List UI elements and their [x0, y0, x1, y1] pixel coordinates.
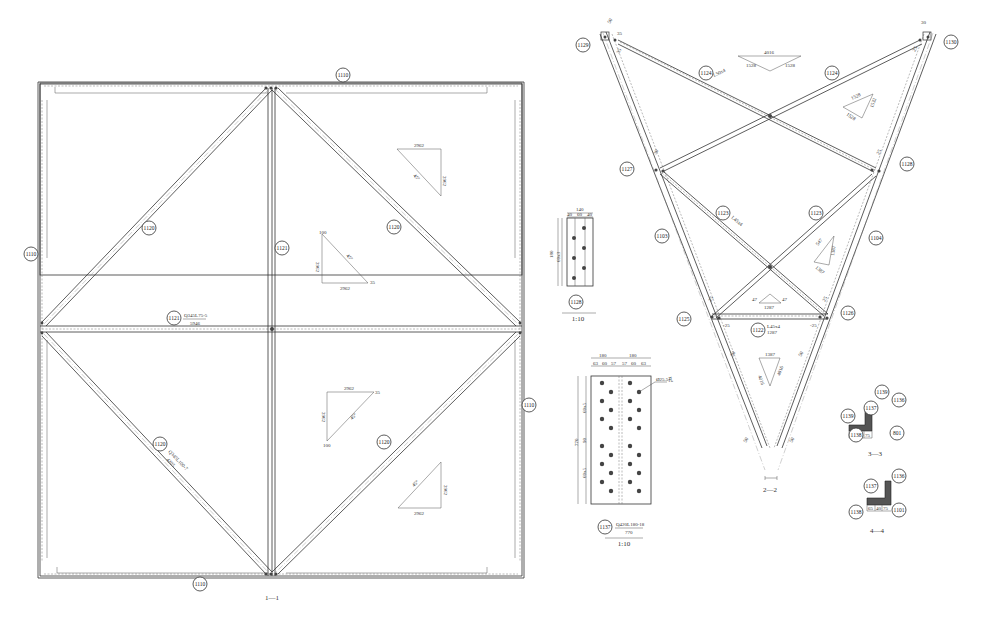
svg-text:50: 50 — [607, 17, 614, 24]
svg-text:1387: 1387 — [814, 265, 825, 276]
tag-3-3-d[interactable]: 1139 — [841, 409, 855, 423]
svg-text:50: 50 — [798, 350, 805, 357]
svg-text:1104: 1104 — [871, 235, 882, 241]
tag-4-4-b[interactable]: 1137 — [864, 479, 878, 493]
lower-cross-spec: L45x4 — [730, 215, 744, 228]
svg-text:1123: 1123 — [718, 210, 729, 216]
tag-mid-horizontal[interactable]: 1121 — [167, 311, 181, 325]
svg-text:1110: 1110 — [338, 72, 349, 78]
tag-3-3-a[interactable]: 1139 — [875, 385, 889, 399]
svg-text:1127: 1127 — [622, 166, 633, 172]
slope-triangle-2-1: 4016 1528 1528 — [738, 50, 801, 71]
mid-horizontal-length: 5946 — [190, 321, 201, 326]
svg-text:801: 801 — [893, 430, 902, 436]
svg-text:1287: 1287 — [764, 305, 775, 310]
tag-left-leg[interactable]: 1103 — [655, 229, 669, 243]
svg-text:547: 547 — [815, 237, 824, 246]
plate-1128-detail: 140 40 60 40 180 60x3 1128 1:10 — [549, 207, 596, 323]
slope-triangle-3: 2962 2962 45° 35 100 — [321, 386, 381, 448]
svg-text:60x5: 60x5 — [582, 403, 587, 414]
svg-text:45°: 45° — [412, 173, 420, 181]
tag-node-low-right[interactable]: 1126 — [841, 306, 855, 320]
svg-text:1124: 1124 — [827, 70, 838, 76]
svg-text:1129: 1129 — [578, 42, 589, 48]
tag-4-4-c[interactable]: 1138 — [849, 505, 863, 519]
svg-text:63: 63 — [593, 361, 599, 366]
svg-text:57: 57 — [622, 361, 628, 366]
tag-diag-upper-right[interactable]: 1120 — [387, 220, 401, 234]
svg-text:1387: 1387 — [765, 352, 776, 357]
svg-text:35: 35 — [370, 280, 376, 285]
svg-text:63: 63 — [641, 361, 647, 366]
svg-text:60: 60 — [577, 212, 583, 217]
section-3-3: 65 40 75 1139 1136 1137 1139 1138 801 3—… — [841, 385, 906, 458]
tag-right-chord[interactable]: 1110 — [522, 398, 536, 412]
tag-3-3-c[interactable]: 1137 — [864, 401, 878, 415]
view-2-2: 50 35 35 30 25 30 25 25 25 -25 -25 50 50… — [576, 17, 958, 494]
slope-triangle-2-4: 1287 47 47 — [752, 294, 788, 310]
tag-bottom-strut[interactable]: 1122 — [751, 323, 765, 337]
svg-text:2962: 2962 — [315, 262, 320, 273]
tag-lower-cross-right[interactable]: 1123 — [809, 206, 823, 220]
tag-plate-1137[interactable]: 1137 — [598, 520, 612, 534]
svg-text:1121: 1121 — [277, 245, 288, 251]
tag-3-3-f[interactable]: 801 — [890, 426, 904, 440]
svg-text:1387: 1387 — [830, 245, 837, 256]
svg-text:-25: -25 — [723, 323, 730, 328]
tag-diag-upper-left[interactable]: 1120 — [142, 221, 156, 235]
svg-text:35: 35 — [616, 47, 623, 54]
svg-text:65: 65 — [868, 506, 874, 511]
svg-text:1137: 1137 — [866, 483, 877, 489]
svg-text:1122: 1122 — [753, 327, 764, 333]
tag-4-4-d[interactable]: 1101 — [892, 503, 906, 517]
svg-text:1110: 1110 — [195, 581, 206, 587]
tag-node-top-right[interactable]: 1130 — [944, 35, 958, 49]
tag-plate-1128[interactable]: 1128 — [569, 295, 583, 309]
svg-text:2962: 2962 — [414, 511, 425, 516]
view-1-1: 1110 1110 1110 1110 1120 1120 1120 1120 … — [24, 68, 536, 602]
svg-text:1136: 1136 — [894, 397, 905, 403]
svg-text:25: 25 — [876, 148, 883, 155]
slope-triangle-1: 2962 2962 45° — [397, 143, 447, 196]
tag-node-low-left[interactable]: 1125 — [677, 312, 691, 326]
svg-text:47: 47 — [752, 297, 758, 302]
svg-text:100: 100 — [323, 443, 331, 448]
tag-diag-lower-left[interactable]: 1120 — [153, 437, 167, 451]
svg-text:25: 25 — [708, 295, 715, 302]
svg-text:1138: 1138 — [851, 432, 862, 438]
tag-3-3-b[interactable]: 1136 — [892, 393, 906, 407]
svg-text:1101: 1101 — [894, 507, 905, 513]
tag-3-3-e[interactable]: 1138 — [849, 428, 863, 442]
tag-diag-lower-right[interactable]: 1120 — [377, 435, 391, 449]
svg-text:75: 75 — [865, 433, 871, 438]
svg-text:2962: 2962 — [340, 286, 351, 291]
svg-text:770: 770 — [574, 438, 579, 446]
bottom-strut-spec: L45x4 — [767, 324, 781, 329]
bottom-strut-length: 1287 — [767, 330, 778, 335]
svg-text:1110: 1110 — [26, 251, 37, 257]
svg-text:1130: 1130 — [946, 39, 957, 45]
tag-node-mid-right[interactable]: 1128 — [900, 157, 914, 171]
svg-text:1138: 1138 — [851, 509, 862, 515]
upper-cross-spec: L50x4 — [712, 68, 726, 78]
tag-vertical-post[interactable]: 1121 — [275, 241, 289, 255]
tag-upper-cross-right[interactable]: 1124 — [825, 66, 839, 80]
tag-lower-cross-left[interactable]: 1123 — [716, 206, 730, 220]
tag-left-chord[interactable]: 1110 — [24, 247, 38, 261]
svg-text:1128: 1128 — [902, 161, 913, 167]
structural-drawing-canvas: 1110 1110 1110 1110 1120 1120 1120 1120 … — [0, 0, 994, 627]
tag-bottom-chord[interactable]: 1110 — [193, 577, 207, 591]
tag-right-leg[interactable]: 1104 — [869, 231, 883, 245]
tag-4-4-a[interactable]: 1136 — [892, 469, 906, 483]
svg-text:1528: 1528 — [746, 63, 757, 68]
tag-top-chord[interactable]: 1110 — [336, 68, 350, 82]
tag-node-top-left[interactable]: 1129 — [576, 38, 590, 52]
svg-text:1126: 1126 — [843, 310, 854, 316]
svg-text:1128: 1128 — [571, 299, 582, 305]
tag-node-mid-left[interactable]: 1127 — [620, 162, 634, 176]
plate-1137-length: 770 — [625, 530, 633, 535]
svg-text:1137: 1137 — [600, 524, 611, 530]
svg-text:1528: 1528 — [785, 63, 796, 68]
plate-1137-scale: 1:10 — [618, 540, 631, 548]
tag-upper-cross-left[interactable]: 1124 — [699, 66, 713, 80]
